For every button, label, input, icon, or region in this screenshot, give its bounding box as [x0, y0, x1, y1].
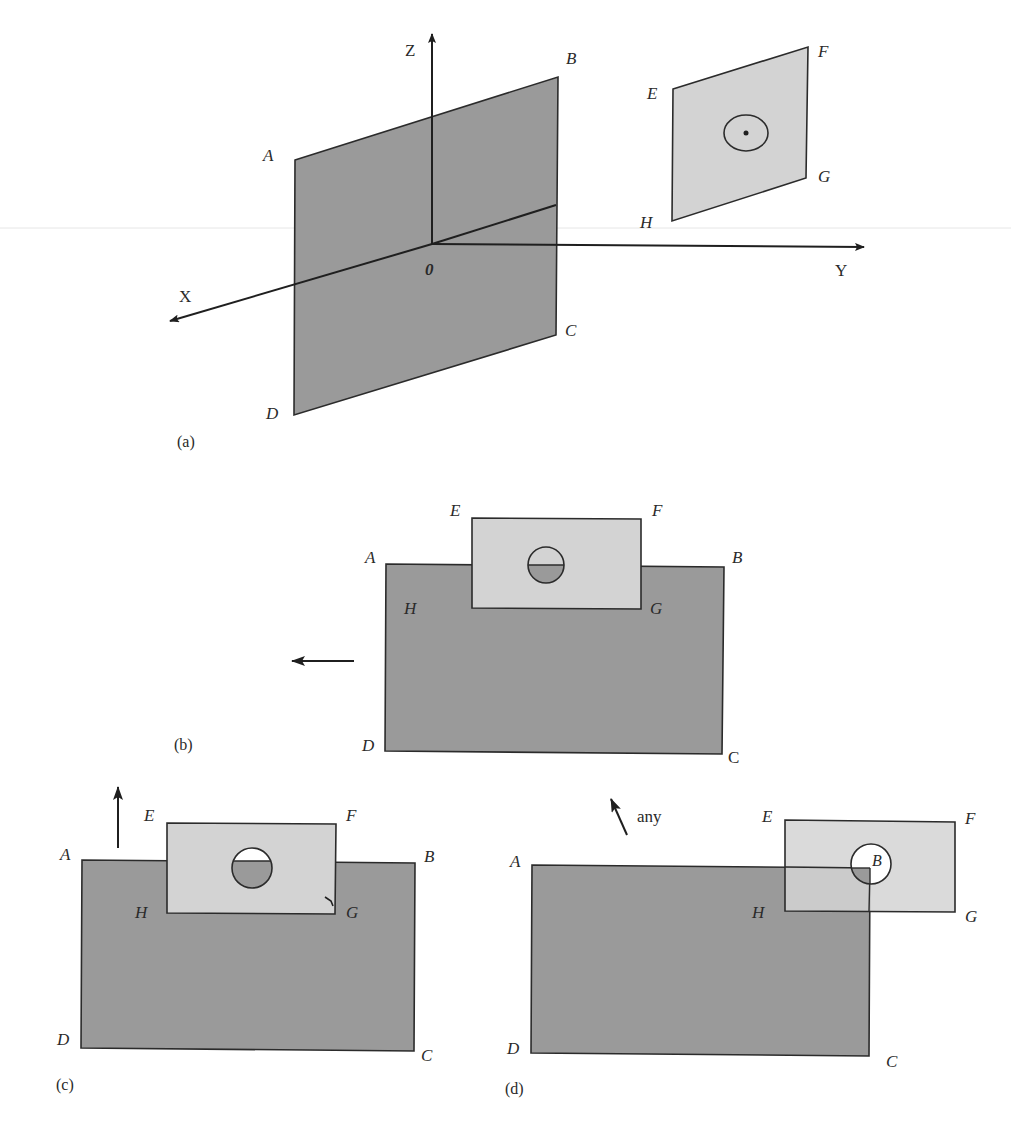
label-d: D — [506, 1039, 520, 1058]
label-a: A — [262, 146, 274, 165]
label-g: G — [818, 167, 830, 186]
caption-d: (d) — [505, 1080, 524, 1098]
label-h: H — [639, 213, 654, 232]
label-c: C — [728, 748, 739, 767]
label-d: D — [56, 1030, 70, 1049]
label-d: D — [361, 736, 375, 755]
caption-c: (c) — [56, 1076, 74, 1094]
y-axis-label: Y — [835, 261, 847, 280]
center-point — [744, 131, 749, 136]
figure-canvas: Z X Y 0 A B C D E F G H (a) A B C D E F … — [0, 0, 1011, 1123]
label-h: H — [751, 903, 766, 922]
caption-b: (b) — [174, 736, 193, 754]
panel-c: A B C D E F G H (c) — [56, 787, 435, 1094]
label-a: A — [364, 548, 376, 567]
plane-efgh — [672, 47, 808, 221]
label-c: C — [421, 1046, 433, 1065]
label-g: G — [346, 903, 358, 922]
caption-a: (a) — [177, 433, 195, 451]
label-f: F — [345, 806, 357, 825]
origin-label: 0 — [425, 260, 434, 279]
z-axis-label: Z — [405, 41, 415, 60]
label-e: E — [646, 84, 658, 103]
label-b: B — [872, 852, 882, 869]
label-b: B — [566, 49, 577, 68]
label-h: H — [403, 599, 418, 618]
label-b: B — [424, 847, 435, 866]
x-axis-label: X — [179, 287, 191, 306]
label-a: A — [59, 845, 71, 864]
label-g: G — [650, 599, 662, 618]
label-b: B — [732, 548, 743, 567]
label-d: D — [265, 404, 279, 423]
label-g: G — [965, 907, 977, 926]
label-e: E — [143, 806, 155, 825]
label-f: F — [964, 809, 976, 828]
label-e: E — [449, 501, 461, 520]
label-h: H — [134, 903, 149, 922]
motion-arrow-any — [611, 799, 627, 835]
label-c: C — [565, 321, 577, 340]
panel-a: Z X Y 0 A B C D E F G H (a) — [170, 34, 864, 451]
label-f: F — [651, 501, 663, 520]
motion-label: any — [637, 807, 662, 826]
panel-d: any A B C D E F G H (d) — [505, 799, 977, 1098]
panel-b: A B C D E F G H (b) — [174, 501, 743, 767]
label-e: E — [761, 807, 773, 826]
label-c: C — [886, 1052, 898, 1071]
label-f: F — [817, 42, 829, 61]
plane-efgh — [472, 518, 641, 609]
label-a: A — [509, 852, 521, 871]
